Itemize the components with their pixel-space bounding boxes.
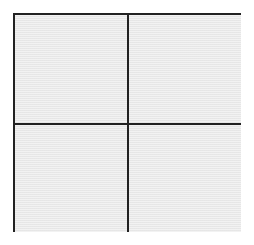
grid-cell-bottom-left <box>15 125 127 232</box>
grid-cell-top-right <box>129 15 241 123</box>
grid-cell-top-left <box>15 15 127 123</box>
grid-cell-bottom-right <box>129 125 241 232</box>
two-by-two-grid <box>13 13 241 232</box>
